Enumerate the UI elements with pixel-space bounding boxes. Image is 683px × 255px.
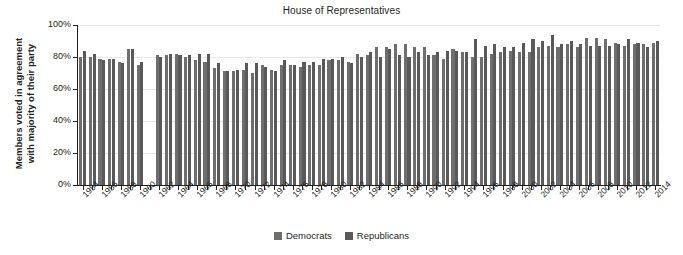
x-tick-label-1962: 1962 (157, 180, 177, 200)
x-tick-label-1954: 1954 (81, 180, 101, 200)
x-tick-label-1982: 1982 (348, 180, 368, 200)
x-tick-label-1998: 1998 (501, 180, 521, 200)
legend-swatch-icon (345, 232, 353, 240)
x-tick-label-2012: 2012 (634, 180, 654, 200)
x-tick-label-1994: 1994 (462, 180, 482, 200)
x-tick-label-1960: 1960 (138, 180, 158, 200)
x-tick-label-2004: 2004 (558, 180, 578, 200)
legend-item-democrats[interactable]: Democrats (274, 231, 332, 241)
x-tick-label-1980: 1980 (329, 180, 349, 200)
x-tick-label-1986: 1986 (386, 180, 406, 200)
chart-legend: DemocratsRepublicans (0, 231, 683, 241)
x-tick-label-2006: 2006 (577, 180, 597, 200)
x-tick-label-1990: 1990 (424, 180, 444, 200)
legend-swatch-icon (274, 232, 282, 240)
x-tick-label-2010: 2010 (615, 180, 635, 200)
x-tick-label-1978: 1978 (310, 180, 330, 200)
x-tick-label-1956: 1956 (100, 180, 120, 200)
x-tick-label-2002: 2002 (539, 180, 559, 200)
x-tick-label-1964: 1964 (176, 180, 196, 200)
x-tick-label-1984: 1984 (367, 180, 387, 200)
x-tick-label-2008: 2008 (596, 180, 616, 200)
x-tick-label-1966: 1966 (195, 180, 215, 200)
x-tick-label-1996: 1996 (481, 180, 501, 200)
x-tick-label-1972: 1972 (253, 180, 273, 200)
x-tick-label-1974: 1974 (272, 180, 292, 200)
x-tick-label-1988: 1988 (405, 180, 425, 200)
x-tick-label-2000: 2000 (520, 180, 540, 200)
chart-container: House of Representatives Members voted i… (0, 0, 683, 255)
legend-label: Republicans (357, 231, 409, 241)
x-tick-label-1976: 1976 (291, 180, 311, 200)
x-tick-label-2014: 2014 (653, 180, 673, 200)
legend-label: Democrats (286, 231, 332, 241)
x-tick-label-1968: 1968 (214, 180, 234, 200)
x-axis-labels: 1954195619581960196219641966196819701972… (0, 0, 683, 255)
x-tick-label-1970: 1970 (233, 180, 253, 200)
x-tick-label-1958: 1958 (119, 180, 139, 200)
x-tick-label-1992: 1992 (443, 180, 463, 200)
legend-item-republicans[interactable]: Republicans (345, 231, 409, 241)
